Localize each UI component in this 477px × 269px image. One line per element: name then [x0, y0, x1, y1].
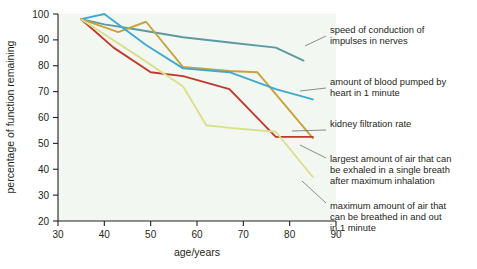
- y-tick-label: 80: [38, 60, 50, 71]
- x-tick-label: 40: [99, 229, 111, 240]
- y-tick-label: 50: [38, 138, 50, 149]
- y-axis-title: percentage of function remaining: [4, 40, 16, 193]
- chart-figure: 2030405060708090100 30405060708090 age/y…: [0, 0, 477, 269]
- annot-exhaled-air-line-2: after maximum inhalation: [330, 175, 435, 186]
- annot-exhaled-air-line-0: largest amount of air that can: [330, 153, 451, 164]
- annot-nerve-conduction: speed of conduction ofimpulses in nerves: [330, 24, 425, 46]
- y-axis-ticks: 2030405060708090100: [32, 9, 58, 227]
- x-tick-label: 50: [145, 229, 157, 240]
- annot-kidney-filtration: kidney filtration rate: [330, 118, 411, 129]
- line-chart: 2030405060708090100 30405060708090 age/y…: [0, 0, 477, 269]
- annot-kidney-filtration-line-0: kidney filtration rate: [330, 118, 411, 129]
- annot-breathed-air: maximum amount of air thatcan be breathe…: [330, 200, 447, 233]
- y-tick-label: 40: [38, 164, 50, 175]
- y-tick-label: 70: [38, 86, 50, 97]
- annot-blood-pumped-line-0: amount of blood pumped by: [330, 76, 447, 87]
- x-axis-ticks: 30405060708090: [52, 221, 342, 240]
- y-tick-label: 20: [38, 216, 50, 227]
- annot-nerve-conduction-line-0: speed of conduction of: [330, 24, 425, 35]
- y-tick-label: 100: [32, 9, 49, 20]
- y-tick-label: 60: [38, 112, 50, 123]
- annot-blood-pumped-line-1: heart in 1 minute: [330, 87, 400, 98]
- annot-breathed-air-line-1: can be breathed in and out: [330, 211, 442, 222]
- annot-breathed-air-line-2: in 1 minute: [330, 222, 376, 233]
- annot-blood-pumped: amount of blood pumped byheart in 1 minu…: [330, 76, 447, 98]
- y-tick-label: 90: [38, 34, 50, 45]
- x-tick-label: 70: [238, 229, 250, 240]
- y-tick-label: 30: [38, 190, 50, 201]
- annot-exhaled-air-line-1: be exhaled in a single breath: [330, 164, 450, 175]
- x-tick-label: 80: [284, 229, 296, 240]
- x-axis-title: age/years: [174, 246, 220, 258]
- annot-breathed-air-line-0: maximum amount of air that: [330, 200, 447, 211]
- x-tick-label: 60: [191, 229, 203, 240]
- x-tick-label: 30: [52, 229, 64, 240]
- annot-nerve-conduction-line-1: impulses in nerves: [330, 35, 408, 46]
- annot-exhaled-air: largest amount of air that canbe exhaled…: [330, 153, 451, 186]
- annotation-labels: speed of conduction ofimpulses in nerves…: [330, 24, 451, 233]
